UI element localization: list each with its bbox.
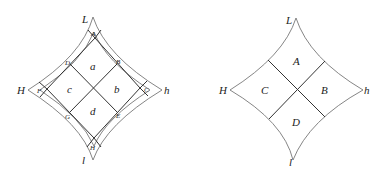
vertex-label-left: H	[16, 84, 26, 96]
left-diagram: L H h l a b c d A B C D E F G H	[16, 13, 170, 166]
tick	[95, 30, 101, 38]
region-label-C: C	[261, 84, 269, 96]
region-label-b: b	[114, 83, 120, 95]
region-label-c: c	[67, 83, 72, 95]
right-diagram: L H h l A B C D	[218, 14, 370, 168]
small-label-F: F	[36, 87, 42, 95]
small-label-B: B	[116, 58, 121, 66]
small-label-H: H	[89, 144, 96, 152]
vertex-label-right: h	[164, 84, 170, 96]
diagram-canvas: L H h l a b c d A B C D E F G H L H h l …	[0, 0, 379, 175]
region-label-a: a	[90, 60, 96, 72]
vertex-label-bottom: l	[289, 156, 292, 168]
small-label-A: A	[90, 30, 96, 38]
small-label-E: E	[115, 112, 121, 120]
region-label-d: d	[90, 105, 96, 117]
region-label-A: A	[292, 55, 300, 67]
vertex-label-top: L	[285, 14, 292, 26]
small-label-D: D	[64, 59, 70, 67]
small-label-C: C	[144, 86, 149, 94]
vertex-label-right: h	[364, 84, 370, 96]
vertex-label-top: L	[81, 13, 88, 25]
region-label-D: D	[291, 116, 300, 128]
region-label-B: B	[321, 84, 328, 96]
right-cross-line-1	[268, 60, 325, 117]
vertex-label-left: H	[218, 84, 228, 96]
small-label-G: G	[65, 113, 70, 121]
vertex-label-bottom: l	[82, 154, 85, 166]
